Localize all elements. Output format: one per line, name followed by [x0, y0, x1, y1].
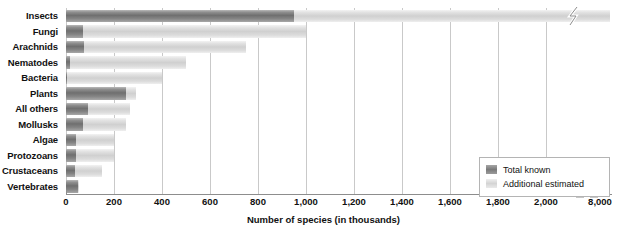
bar-segment-additional-estimated	[66, 25, 306, 38]
x-tick-label: 1,800	[486, 196, 510, 207]
x-tick-label: 800	[250, 196, 266, 207]
species-bar-chart: Insects Fungi Arachnids Nematodes Bacter…	[0, 0, 623, 245]
gridline	[402, 8, 403, 194]
x-tick-label: 600	[202, 196, 218, 207]
bar-segment-total-known	[66, 134, 76, 147]
x-tick-label: 2,000	[534, 196, 558, 207]
bar-segment-additional-estimated	[66, 41, 246, 54]
x-tick-label: 8,000	[588, 196, 612, 207]
x-tick-label: 200	[106, 196, 122, 207]
axis-break-icon	[566, 6, 582, 26]
bar-segment-total-known	[66, 87, 126, 100]
bar-segment-additional-estimated	[66, 56, 186, 69]
bar-segment-total-known	[66, 56, 70, 69]
gridline	[354, 8, 355, 194]
category-label: Mollusks	[18, 117, 58, 133]
bar-segment-total-known	[66, 180, 78, 193]
legend-swatch-icon-total-known	[486, 165, 497, 174]
category-label: Plants	[30, 86, 58, 102]
x-axis-title-wrapper: Number of species (in thousands)	[0, 214, 623, 225]
category-label: Insects	[26, 8, 58, 24]
category-label: Arachnids	[12, 39, 58, 55]
x-axis-origin-tick	[66, 191, 67, 195]
category-label: Vertebrates	[7, 179, 58, 195]
bar-segment-total-known	[66, 10, 294, 23]
x-tick-label: 400	[154, 196, 170, 207]
x-tick-label: 1,400	[390, 196, 414, 207]
x-axis-title: Number of species (in thousands)	[247, 214, 400, 225]
bar-segment-total-known	[66, 41, 84, 54]
gridline	[450, 8, 451, 194]
category-axis-labels: Insects Fungi Arachnids Nematodes Bacter…	[0, 8, 62, 194]
legend-swatch-icon-additional-estimated	[486, 179, 497, 188]
x-tick-label: 1,600	[438, 196, 462, 207]
bar-segment-additional-estimated	[66, 72, 162, 85]
category-label: Crustaceans	[2, 163, 58, 179]
bar-segment-total-known	[66, 118, 83, 131]
x-axis-tick-labels: 0 200 400 600 800 1,000 1,200 1,400 1,60…	[0, 196, 623, 212]
category-label: Protozoans	[7, 148, 58, 164]
x-tick-label: 1,200	[342, 196, 366, 207]
category-label: Fungi	[33, 24, 58, 40]
bar-segment-total-known	[66, 25, 83, 38]
category-label: Nematodes	[8, 55, 58, 71]
gridline	[306, 8, 307, 194]
legend-label: Total known	[503, 165, 551, 175]
category-label: Algae	[33, 132, 58, 148]
x-tick-label: 0	[63, 196, 68, 207]
category-label: Bacteria	[21, 70, 58, 86]
chart-legend: Total known Additional estimated	[479, 157, 610, 197]
x-tick-label: 1,000	[294, 196, 318, 207]
bar-segment-total-known	[66, 72, 67, 85]
bar-segment-total-known	[66, 165, 75, 178]
legend-item-additional-estimated: Additional estimated	[486, 177, 603, 190]
legend-label: Additional estimated	[503, 179, 584, 189]
bar-segment-total-known	[66, 149, 76, 162]
category-label: All others	[15, 101, 58, 117]
bar-segment-total-known	[66, 103, 88, 116]
legend-item-total-known: Total known	[486, 163, 603, 176]
